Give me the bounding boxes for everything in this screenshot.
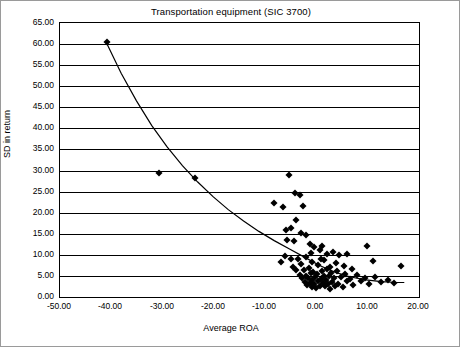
gridline-horizontal [60, 234, 419, 235]
y-tick-label: 60.00 [1, 39, 54, 48]
gridline-horizontal [60, 44, 419, 45]
data-point-marker [391, 279, 398, 286]
data-point-marker [280, 204, 287, 211]
gridline-horizontal [60, 86, 419, 87]
data-point-marker [287, 256, 294, 263]
y-tick-label: 15.00 [1, 229, 54, 238]
data-point-marker [397, 262, 404, 269]
data-point-marker [348, 265, 355, 272]
data-point-marker [335, 251, 342, 258]
gridline-horizontal [60, 171, 419, 172]
y-tick-label: 55.00 [1, 60, 54, 69]
y-tick-label: 45.00 [1, 102, 54, 111]
gridline-horizontal [60, 128, 419, 129]
data-point-marker [300, 202, 307, 209]
data-point-marker [344, 251, 351, 258]
y-tick-label: 25.00 [1, 187, 54, 196]
data-point-marker [290, 237, 297, 244]
y-tick-label: 35.00 [1, 144, 54, 153]
data-point-marker [285, 171, 292, 178]
gridline-horizontal [60, 192, 419, 193]
gridline-horizontal [60, 149, 419, 150]
chart-container: Transportation equipment (SIC 3700) SD i… [0, 0, 460, 347]
chart-title: Transportation equipment (SIC 3700) [1, 6, 460, 17]
gridline-horizontal [60, 65, 419, 66]
data-point-marker [288, 224, 295, 231]
y-tick-label: 20.00 [1, 208, 54, 217]
data-point-marker [339, 284, 346, 291]
x-tick-label: -40.00 [90, 302, 130, 311]
data-point-marker [364, 242, 371, 249]
gridline-horizontal [60, 255, 419, 256]
data-point-marker [340, 263, 347, 270]
data-point-marker [366, 280, 373, 287]
gridline-horizontal [60, 107, 419, 108]
x-tick-label: 0.00 [295, 302, 335, 311]
x-tick-label: -30.00 [142, 302, 182, 311]
x-axis-label: Average ROA [1, 323, 460, 333]
y-tick-label: 40.00 [1, 123, 54, 132]
plot-area [59, 22, 420, 298]
y-tick-label: 50.00 [1, 81, 54, 90]
data-point-marker [192, 175, 199, 182]
gridline-horizontal [60, 213, 419, 214]
data-point-marker [277, 259, 284, 266]
y-tick-label: 30.00 [1, 166, 54, 175]
data-point-marker [350, 282, 357, 289]
x-tick-label: -10.00 [244, 302, 284, 311]
data-point-marker [370, 257, 377, 264]
data-point-marker [333, 260, 340, 267]
x-tick-label: 10.00 [347, 302, 387, 311]
x-tick-label: 20.00 [398, 302, 438, 311]
x-tick-label: -20.00 [193, 302, 233, 311]
y-tick-label: 5.00 [1, 271, 54, 280]
data-point-marker [293, 216, 300, 223]
data-point-marker [271, 199, 278, 206]
x-tick-label: -50.00 [39, 302, 79, 311]
y-tick-label: 10.00 [1, 250, 54, 259]
data-point-marker [371, 273, 378, 280]
y-tick-label: 0.00 [1, 292, 54, 301]
y-tick-label: 65.00 [1, 18, 54, 27]
